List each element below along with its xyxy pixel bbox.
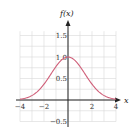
x-axis-arrow-icon [115,98,121,103]
svg-text:4: 4 [114,103,119,111]
svg-text:−4: −4 [15,103,26,111]
svg-text:−0.5: −0.5 [50,118,67,126]
svg-text:1.5: 1.5 [56,32,67,40]
svg-text:0.5: 0.5 [56,75,67,83]
svg-text:2: 2 [90,103,94,111]
x-axis-label: x [124,96,129,105]
chart: −4−2241.51.00.5−0.5 x f(x) [0,0,137,134]
y-axis-label: f(x) [59,9,74,18]
svg-text:−2: −2 [39,103,49,111]
y-axis-arrow-icon [66,20,71,26]
